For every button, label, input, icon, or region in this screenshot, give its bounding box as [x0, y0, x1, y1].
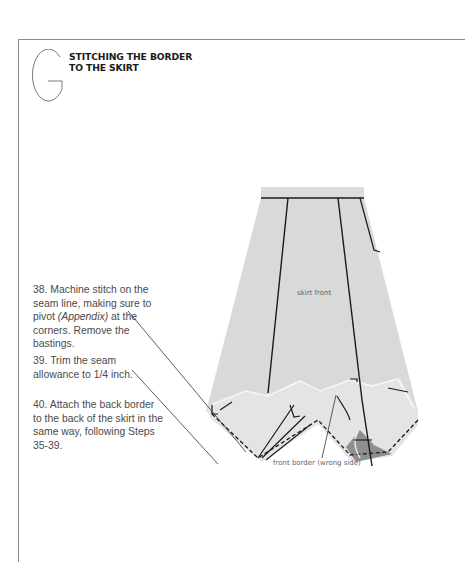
- waistband: [261, 187, 364, 198]
- leader-line-step-39: [132, 370, 218, 464]
- skirt-front-panel: [206, 198, 418, 412]
- front-border-label: front border (wrong side): [273, 459, 361, 467]
- skirt-border-illustration: skirt front front border (wrong side): [0, 0, 465, 562]
- skirt-front-label: skirt front: [297, 289, 331, 297]
